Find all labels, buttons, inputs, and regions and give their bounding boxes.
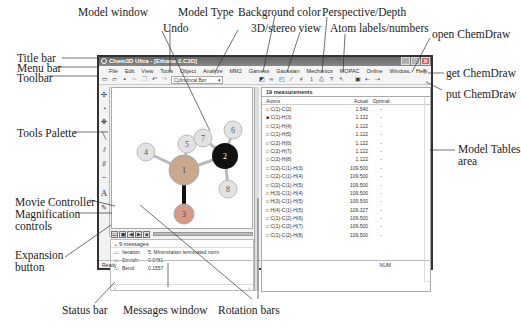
background-color-icon[interactable]: ◩ (258, 76, 265, 83)
measurements-caption: 19 measurements (262, 88, 430, 97)
movie-back-button[interactable]: ◀ (127, 231, 134, 238)
cut-icon[interactable]: ✂ (131, 76, 138, 83)
menu-file[interactable]: File (109, 68, 118, 74)
print-icon[interactable]: ⎙ (318, 76, 325, 83)
rotate-tool-icon[interactable]: ✣ (101, 91, 107, 99)
eraser-tool-icon[interactable]: ✎ (101, 204, 107, 212)
get-chemdraw-icon[interactable]: ⇠ (364, 76, 371, 83)
table-row[interactable]: □ C(1)-C(2)1.540- (262, 105, 430, 113)
menu-window[interactable]: Window (389, 68, 409, 74)
callout-expansion-2: button (15, 261, 44, 273)
svg-text:7: 7 (201, 134, 205, 143)
menu-tools[interactable]: Tools (160, 68, 173, 74)
model-type-select[interactable]: Cylindrical Bor (171, 76, 223, 84)
callout-model-tables: Model Tables (458, 143, 521, 155)
callout-messages-window: Messages window (123, 304, 208, 316)
table-row[interactable]: □ C(1)-H(4)1.122- (262, 122, 430, 130)
callout-model-type: Model Type (178, 6, 234, 18)
menu-online[interactable]: Online (367, 68, 383, 74)
close-button[interactable]: X (421, 57, 430, 65)
open-chemdraw-icon[interactable]: ▣ (354, 76, 361, 83)
movie-play-button[interactable]: ▶ (135, 231, 142, 238)
menu-mopac[interactable]: MOPAC (340, 68, 360, 74)
table-row[interactable]: □ C(2)-C(1)-H(4)109.500- (262, 172, 430, 180)
callout-toolbar: Toolbar (17, 72, 53, 84)
table-row[interactable]: □ H(3)-C(1)-H(4)109.500- (262, 189, 430, 197)
single-bond-tool-icon[interactable]: ╲ (102, 132, 106, 140)
redo-icon[interactable]: ↷ (161, 76, 168, 83)
copy-icon[interactable]: ❐ (141, 76, 148, 83)
stereo-icon[interactable]: ∞ (268, 76, 275, 83)
triple-bond-tool-icon[interactable]: ⫻ (102, 160, 106, 168)
undo-icon[interactable]: ↶ (151, 76, 158, 83)
tools-palette: ✣ ◔ ✥ ╲ ⫽ ⫻ ┈ A ✎ (99, 87, 110, 237)
table-row[interactable]: ■ C(1)-H(3)1.122- (262, 113, 430, 121)
put-chemdraw-icon[interactable]: ⇢ (374, 76, 381, 83)
perspective-icon[interactable]: ◰ (278, 76, 285, 83)
table-row[interactable]: □ C(1)-C(2)-H(6)109.500- (262, 214, 430, 222)
save-icon[interactable]: ▪ (121, 76, 128, 83)
menu-edit[interactable]: Edit (125, 68, 134, 74)
callout-movie-controller: Movie Controller (15, 196, 95, 208)
messages-count: 9 messages (119, 241, 149, 247)
tables-vscroll[interactable]: ⌄ (424, 97, 430, 283)
table-row[interactable]: □ C(1)-C(2)-H(7)109.500- (262, 222, 430, 230)
mdi-controls[interactable]: _ ▫ x (408, 67, 428, 73)
menu-gaussian[interactable]: Gaussian (276, 68, 299, 74)
rotation-bar-horizontal[interactable] (153, 232, 253, 236)
text-tool-icon[interactable]: A (101, 188, 108, 198)
model-window[interactable]: 4 6 8 5 7 3 1 2 (111, 87, 253, 229)
depth-icon[interactable]: ⁄ (288, 76, 295, 83)
movie-stop-button[interactable]: ■ (143, 231, 150, 238)
table-row[interactable]: □ C(1)-C(2)-H(8)109.500- (262, 231, 430, 239)
atom-labels-icon[interactable]: ꜰ (298, 76, 305, 83)
movie-controller: ▭ ◼ ◀ ▶ ■ (99, 230, 253, 238)
menu-bar: File Edit View Tools Object Analyze MM2 … (99, 66, 431, 75)
table-row[interactable]: □ H(3)-C(1)-H(5)109.500- (262, 197, 430, 205)
table-row[interactable]: □ C(2)-H(7)1.122- (262, 147, 430, 155)
svg-text:1: 1 (182, 166, 186, 175)
menu-view[interactable]: View (141, 68, 153, 74)
callout-stereo: 3D/stereo view (251, 22, 321, 34)
message-row[interactable]: ▭Iteration5: Minimization terminated nor… (111, 248, 253, 256)
svg-text:2: 2 (223, 152, 227, 161)
open-icon[interactable]: ▱ (111, 76, 118, 83)
callout-status-bar: Status bar (62, 304, 108, 316)
table-row[interactable]: □ C(2)-C(1)-H(3)109.500- (262, 164, 430, 172)
table-row[interactable]: □ H(4)-C(1)-H(5)109.327- (262, 206, 430, 214)
callout-rotation-bars: Rotation bars (218, 304, 280, 316)
callout-get-chemdraw: get ChemDraw (446, 67, 516, 79)
translate-tool-icon[interactable]: ✥ (101, 118, 107, 126)
status-text: Ready (102, 261, 116, 268)
status-bar: Ready NUM (99, 260, 431, 268)
dummy-bond-tool-icon[interactable]: ┈ (102, 174, 106, 182)
new-icon[interactable]: ▭ (101, 76, 108, 83)
expansion-button[interactable]: ⌄ (113, 240, 118, 248)
select-tool-icon[interactable]: ◔ (102, 105, 106, 112)
window-title: Chem3D Ultra - [Ethane-2.C3D] (109, 58, 197, 64)
menu-analyze[interactable]: Analyze (203, 68, 223, 74)
menu-object[interactable]: Object (180, 68, 196, 74)
magnify-decrease-button[interactable]: ▭ (111, 231, 118, 238)
table-row[interactable]: □ C(2)-H(6)1.122- (262, 139, 430, 147)
help-icon[interactable]: ? (328, 76, 335, 83)
maximize-button[interactable]: □ (411, 57, 420, 65)
svg-text:6: 6 (231, 126, 235, 135)
menu-mechanics[interactable]: Mechanics (306, 68, 332, 74)
table-row[interactable]: □ C(1)-H(5)1.122- (262, 130, 430, 138)
callout-tools-palette: Tools Palette (17, 127, 77, 139)
svg-text:3: 3 (182, 210, 186, 219)
pointer-help-icon[interactable]: ↖ (338, 76, 345, 83)
callout-model-tables-2: area (458, 155, 477, 167)
menu-gamess[interactable]: Gamess (249, 68, 269, 74)
double-bond-tool-icon[interactable]: ⫽ (103, 146, 106, 154)
minimize-button[interactable]: _ (401, 57, 410, 65)
magnify-increase-button[interactable]: ◼ (119, 231, 126, 238)
table-row[interactable]: □ C(2)-H(8)1.122- (262, 155, 430, 163)
atom-numbers-icon[interactable]: ʇ (308, 76, 315, 83)
callout-expansion: Expansion (15, 249, 64, 261)
app-icon (101, 58, 107, 64)
messages-hscroll[interactable]: ‹› (111, 284, 253, 290)
menu-mm2[interactable]: MM2 (230, 68, 242, 74)
table-row[interactable]: □ C(2)-C(1)-H(5)109.500- (262, 181, 430, 189)
